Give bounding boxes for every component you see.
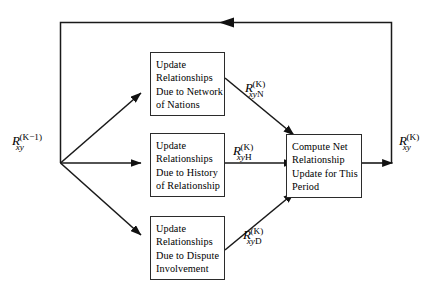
process-box-history[interactable]: Update Relationships Due to History of R… <box>150 133 225 197</box>
edge-input-to-dispute <box>61 163 142 235</box>
label-dispute-output: R(K)xyD <box>243 227 266 245</box>
label-dispute-superscript: (K) <box>250 226 263 236</box>
process-box-network[interactable]: Update Relationships Due to Network of N… <box>150 52 225 116</box>
label-output-relationship: R(K)xy <box>399 133 415 151</box>
label-output-subscript: xy <box>403 142 411 152</box>
label-history-subscript-xy: xy <box>237 152 245 162</box>
process-box-dispute[interactable]: Update Relationships Due to Dispute Invo… <box>150 216 225 280</box>
label-network-subscript-n: N <box>257 89 264 99</box>
label-input-superscript: (K−1) <box>19 132 42 142</box>
label-network-subscript-xy: xy <box>249 89 257 99</box>
edge-input-to-network <box>61 93 142 163</box>
label-network-output: R(K)xyN <box>245 80 268 98</box>
label-input-relationship: R(K−1)xy <box>12 133 28 151</box>
label-network-superscript: (K) <box>252 79 265 89</box>
label-history-output: R(K)xyH <box>233 143 256 161</box>
label-history-superscript: (K) <box>240 142 253 152</box>
process-box-compute[interactable]: Compute Net Relationship Update for This… <box>286 134 362 198</box>
label-dispute-subscript-xy: xy <box>247 236 255 246</box>
label-dispute-subscript-d: D <box>255 236 262 246</box>
flow-diagram: Update Relationships Due to Network of N… <box>0 0 443 294</box>
label-history-subscript-h: H <box>245 152 252 162</box>
label-input-subscript: xy <box>16 142 24 152</box>
label-output-superscript: (K) <box>406 132 419 142</box>
